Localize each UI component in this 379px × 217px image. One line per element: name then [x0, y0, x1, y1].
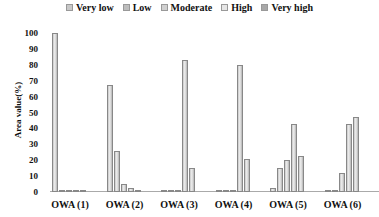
bar — [135, 190, 141, 192]
bar — [237, 65, 243, 192]
bar — [298, 156, 304, 192]
y-tick-label: 100 — [14, 28, 38, 38]
legend-swatch-icon — [221, 4, 228, 11]
bar-group — [325, 33, 379, 192]
x-tick-label: OWA (2) — [98, 199, 152, 210]
bar — [107, 85, 113, 192]
x-tick-label: OWA (5) — [261, 199, 315, 210]
bar — [216, 190, 222, 192]
bar — [325, 190, 331, 192]
legend-item-very-low: Very low — [66, 2, 114, 13]
legend-item-low: Low — [123, 2, 152, 13]
bar — [168, 190, 174, 192]
bar — [270, 188, 276, 192]
bar — [161, 190, 167, 192]
bar — [346, 124, 352, 192]
bar — [284, 160, 290, 192]
y-tick-label: 40 — [14, 123, 38, 133]
legend-item-high: High — [221, 2, 252, 13]
y-tick-label: 30 — [14, 139, 38, 149]
legend-item-very-high: Very high — [261, 2, 313, 13]
bar-group — [216, 33, 271, 192]
bar — [332, 190, 338, 192]
bar — [52, 33, 58, 192]
y-tick-label: 80 — [14, 60, 38, 70]
y-tick-label: 50 — [14, 108, 38, 118]
chart-legend: Very low Low Moderate High Very high — [0, 2, 379, 13]
legend-label: Very high — [271, 2, 313, 13]
bar — [223, 190, 229, 192]
legend-label: High — [231, 2, 252, 13]
bar — [339, 173, 345, 192]
legend-label: Moderate — [171, 2, 213, 13]
bar — [277, 168, 283, 192]
bar — [80, 190, 86, 192]
legend-label: Low — [133, 2, 152, 13]
legend-swatch-icon — [161, 4, 168, 11]
bar — [291, 124, 297, 192]
bar-group — [270, 33, 325, 192]
y-tick-label: 70 — [14, 76, 38, 86]
y-tick-label: 20 — [14, 155, 38, 165]
bar — [121, 184, 127, 192]
bar — [244, 159, 250, 192]
bar — [230, 190, 236, 192]
bar — [189, 168, 195, 192]
plot-area — [50, 33, 379, 192]
y-tick-label: 10 — [14, 171, 38, 181]
x-tick-label: OWA (3) — [152, 199, 206, 210]
legend-swatch-icon — [123, 4, 130, 11]
bar — [66, 190, 72, 192]
legend-label: Very low — [76, 2, 114, 13]
legend-swatch-icon — [66, 4, 73, 11]
x-tick-label: OWA (4) — [207, 199, 261, 210]
legend-swatch-icon — [261, 4, 268, 11]
bar — [128, 188, 134, 192]
x-tick-label: OWA (6) — [316, 199, 370, 210]
y-tick-label: 0 — [14, 187, 38, 197]
bar-group — [52, 33, 107, 192]
x-tick-label: OWA (1) — [43, 199, 97, 210]
bar — [59, 190, 65, 192]
bar — [73, 190, 79, 192]
bar — [353, 117, 359, 192]
bar — [114, 151, 120, 192]
bar — [175, 190, 181, 192]
bar-group — [107, 33, 162, 192]
y-tick-label: 60 — [14, 92, 38, 102]
bar — [182, 60, 188, 192]
y-tick-label: 90 — [14, 44, 38, 54]
legend-item-moderate: Moderate — [161, 2, 213, 13]
bar-group — [161, 33, 216, 192]
